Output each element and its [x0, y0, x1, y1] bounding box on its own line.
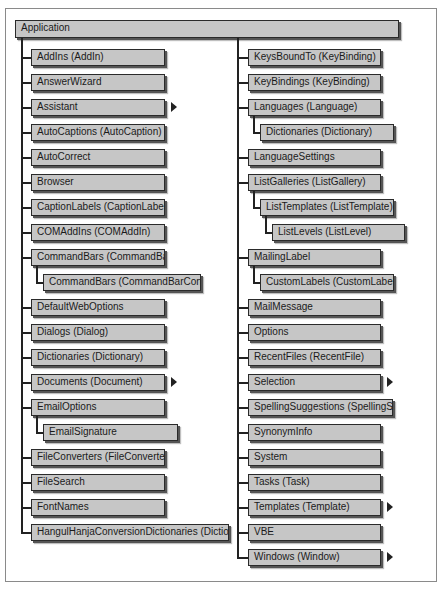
node-emailoptions: EmailOptions: [31, 399, 165, 416]
node-application: Application: [15, 20, 399, 38]
node-templates: Templates (Template): [248, 499, 381, 516]
node-listgalleries: ListGalleries (ListGallery): [248, 174, 381, 191]
connector-line: [36, 432, 43, 434]
expand-arrow-icon: [171, 102, 177, 112]
node-fileconverters: FileConverters (FileConverter): [31, 449, 165, 466]
connector-line: [237, 307, 248, 309]
node-dialogs: Dialogs (Dialog): [31, 324, 165, 341]
node-commandbars: CommandBars (CommandBarControl): [43, 274, 201, 291]
connector-line: [237, 532, 248, 534]
connector-line: [21, 357, 31, 359]
connector-line: [21, 57, 31, 59]
node-browser: Browser: [31, 174, 165, 191]
left-trunk-line: [21, 38, 23, 533]
connector-line: [237, 357, 248, 359]
node-synonyminfo: SynonymInfo: [248, 424, 381, 441]
connector-line: [21, 457, 31, 459]
connector-line: [36, 282, 43, 284]
node-autocaptions: AutoCaptions (AutoCaption): [31, 124, 165, 141]
connector-line: [21, 332, 31, 334]
connector-line: [21, 382, 31, 384]
node-languages: Languages (Language): [248, 99, 381, 116]
connector-line: [21, 407, 31, 409]
right-trunk-line: [237, 38, 239, 558]
node-addins: AddIns (AddIn): [31, 49, 165, 66]
connector-line: [237, 407, 248, 409]
connector-line: [237, 157, 248, 159]
node-mailinglabel: MailingLabel: [248, 249, 381, 266]
connector-line: [21, 82, 31, 84]
connector-line: [237, 557, 248, 559]
connector-line: [237, 432, 248, 434]
node-assistant: Assistant: [31, 99, 165, 116]
node-vbe: VBE: [248, 524, 381, 541]
expand-arrow-icon: [171, 377, 177, 387]
connector-line: [265, 216, 267, 232]
connector-line: [21, 507, 31, 509]
node-spellingsuggestions: SpellingSuggestions (SpellingSuggestion): [248, 399, 393, 416]
node-defaultweboptions: DefaultWebOptions: [31, 299, 165, 316]
node-options: Options: [248, 324, 381, 341]
connector-line: [253, 132, 260, 134]
node-dictionaries: Dictionaries (Dictionary): [260, 124, 394, 141]
expand-arrow-icon: [387, 502, 393, 512]
connector-line: [21, 107, 31, 109]
connector-line: [237, 57, 248, 59]
node-captionlabels: CaptionLabels (CaptionLabel): [31, 199, 165, 216]
node-recentfiles: RecentFiles (RecentFile): [248, 349, 381, 366]
connector-line: [21, 482, 31, 484]
connector-line: [237, 107, 248, 109]
connector-line: [21, 257, 31, 259]
connector-line: [21, 157, 31, 159]
node-windows: Windows (Window): [248, 549, 381, 566]
connector-line: [237, 182, 248, 184]
connector-line: [21, 207, 31, 209]
connector-line: [253, 282, 260, 284]
connector-line: [253, 191, 255, 207]
connector-line: [21, 232, 31, 234]
node-tasks: Tasks (Task): [248, 474, 381, 491]
node-documents: Documents (Document): [31, 374, 165, 391]
expand-arrow-icon: [387, 377, 393, 387]
node-dictionaries: Dictionaries (Dictionary): [31, 349, 165, 366]
node-hangulhanjaconversiondictionaries: HangulHanjaConversionDictionaries (Dicti…: [31, 524, 229, 541]
node-commandbars: CommandBars (CommandBar): [31, 249, 165, 266]
node-customlabels: CustomLabels (CustomLabel): [260, 274, 394, 291]
node-fontnames: FontNames: [31, 499, 165, 516]
node-autocorrect: AutoCorrect: [31, 149, 165, 166]
node-emailsignature: EmailSignature: [43, 424, 178, 441]
node-filesearch: FileSearch: [31, 474, 165, 491]
connector-line: [237, 332, 248, 334]
connector-line: [253, 266, 255, 282]
connector-line: [21, 532, 31, 534]
node-answerwizard: AnswerWizard: [31, 74, 165, 91]
connector-line: [237, 482, 248, 484]
connector-line: [237, 82, 248, 84]
node-selection: Selection: [248, 374, 381, 391]
connector-line: [36, 266, 38, 282]
connector-line: [253, 116, 255, 132]
node-keysboundto: KeysBoundTo (KeyBinding): [248, 49, 381, 66]
connector-line: [253, 207, 260, 209]
connector-line: [265, 232, 272, 234]
connector-line: [21, 182, 31, 184]
node-languagesettings: LanguageSettings: [248, 149, 381, 166]
expand-arrow-icon: [387, 552, 393, 562]
node-listlevels: ListLevels (ListLevel): [272, 224, 405, 241]
node-keybindings: KeyBindings (KeyBinding): [248, 74, 381, 91]
connector-line: [36, 416, 38, 432]
connector-line: [21, 132, 31, 134]
node-system: System: [248, 449, 381, 466]
connector-line: [237, 257, 248, 259]
node-comaddins: COMAddIns (COMAddIn): [31, 224, 165, 241]
connector-line: [237, 382, 248, 384]
diagram-frame: [5, 8, 437, 582]
node-mailmessage: MailMessage: [248, 299, 381, 316]
connector-line: [237, 507, 248, 509]
connector-line: [21, 307, 31, 309]
node-listtemplates: ListTemplates (ListTemplate): [260, 199, 394, 216]
connector-line: [237, 457, 248, 459]
